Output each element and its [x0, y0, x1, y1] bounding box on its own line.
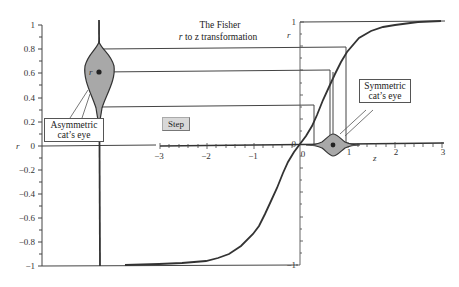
svg-text:−0.4: −0.4: [19, 189, 36, 199]
svg-text:1: 1: [347, 147, 352, 157]
svg-text:2: 2: [394, 147, 399, 157]
svg-text:−2: −2: [201, 151, 211, 161]
figure-title: The Fisher r to z transformation: [179, 20, 258, 42]
sample-r-point: [96, 69, 101, 74]
svg-text:0.6: 0.6: [24, 68, 36, 78]
step-button[interactable]: Step: [162, 117, 190, 131]
sample-z-point: [331, 143, 336, 148]
svg-text:−0.2: −0.2: [19, 165, 35, 175]
svg-text:−1: −1: [25, 261, 35, 271]
bottom-minus-one-line: [42, 265, 298, 266]
svg-text:The Fisher: The Fisher: [200, 20, 242, 30]
svg-text:−1: −1: [248, 151, 258, 161]
svg-text:0: 0: [301, 149, 306, 159]
svg-text:0: 0: [292, 139, 297, 149]
svg-text:0: 0: [31, 141, 36, 151]
svg-text:0.4: 0.4: [24, 93, 36, 103]
svg-text:1: 1: [31, 20, 36, 30]
svg-text:r: r: [89, 67, 93, 77]
z-axis-label: z: [372, 153, 377, 163]
svg-text:0.8: 0.8: [24, 44, 36, 54]
svg-text:−0.8: −0.8: [19, 237, 36, 247]
asymmetric-callout: Asymmetric cat’s eye: [44, 118, 104, 142]
svg-text:0.2: 0.2: [24, 117, 35, 127]
svg-text:−3: −3: [154, 151, 164, 161]
z-axis: [160, 143, 444, 146]
svg-text:−1: −1: [286, 260, 296, 270]
left-r-axis-ticks: 1 0.8 0.6 0.4 0.2 0 −0.2 −0.4 −0.6 −0.8 …: [16, 20, 36, 271]
fisher-transform-figure: 1 0.8 0.6 0.4 0.2 0 −0.2 −0.4 −0.6 −0.8 …: [0, 0, 459, 287]
svg-text:1: 1: [292, 17, 297, 27]
left-axis-label: r: [16, 141, 20, 151]
svg-text:3: 3: [441, 147, 446, 157]
svg-text:−0.6: −0.6: [19, 213, 36, 223]
right-axis-label: r: [287, 30, 291, 40]
symmetric-callout: Symmetric cat’s eye: [359, 79, 411, 103]
left-r-axis: [38, 25, 42, 266]
asymmetric-cats-eye: [85, 42, 115, 126]
svg-text:r to z transformation: r to z transformation: [179, 32, 258, 42]
